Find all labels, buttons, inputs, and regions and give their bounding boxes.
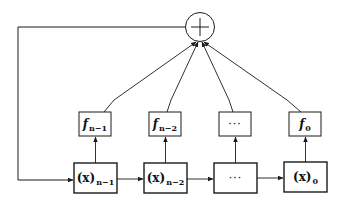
x-base: (x) (147, 171, 166, 185)
f-sub: n−1 (89, 123, 107, 133)
x-base: (x) (293, 170, 312, 184)
f-base: f (153, 117, 158, 131)
edge-f2-sum (171, 42, 198, 100)
x-label-n-1: (x)n−1 (74, 163, 117, 193)
x-sub: n−1 (96, 177, 114, 187)
sum-node (186, 13, 215, 42)
x-base: (x) (77, 171, 96, 185)
edge-f1-sum (114, 42, 196, 100)
x-sub: n−2 (166, 177, 184, 187)
f-sub: n−2 (159, 123, 177, 133)
f-sub: 0 (305, 123, 311, 133)
x-label-0: (x)0 (284, 162, 327, 192)
edge-f0-sum (204, 42, 287, 100)
f-label-ellipsis: ··· (219, 112, 251, 136)
f-label-n-1: fn−1 (79, 112, 111, 136)
x-label-n-2: (x)n−2 (144, 163, 187, 193)
feedback-line (18, 27, 186, 180)
f-base: f (83, 117, 88, 131)
f-base: f (299, 117, 304, 131)
ellipsis-text: ··· (228, 118, 242, 131)
f-label-n-2: fn−2 (149, 112, 181, 136)
ellipsis-text: ··· (229, 172, 243, 185)
x-sub: 0 (312, 176, 318, 186)
f-label-0: f0 (289, 112, 321, 136)
edge-f3-sum (202, 42, 229, 100)
x-label-ellipsis: ··· (214, 163, 257, 193)
